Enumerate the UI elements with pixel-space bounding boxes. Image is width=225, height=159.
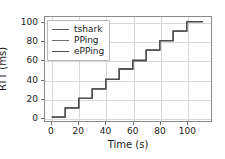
legend-swatch-icon: [52, 29, 69, 30]
legend-label: ePPing: [74, 46, 104, 57]
x-tick-label: 40: [100, 126, 111, 136]
x-tick-label: 100: [179, 126, 196, 136]
y-tick-label: 40: [27, 75, 38, 85]
y-tick-mark: [41, 99, 44, 100]
y-tick-label: 60: [27, 55, 38, 65]
x-tick-label: 60: [127, 126, 138, 136]
y-tick-mark: [41, 80, 44, 81]
y-axis-label: RTT (ms): [0, 47, 8, 91]
legend-swatch-icon: [52, 51, 69, 52]
y-tick-mark: [41, 60, 44, 61]
y-tick-mark: [41, 22, 44, 23]
x-axis-label: Time (s): [44, 139, 212, 150]
y-tick-label: 100: [21, 17, 38, 27]
rtt-vs-time-figure: 020406080100020406080100 Time (s) RTT (m…: [0, 0, 225, 159]
y-tick-label: 0: [32, 113, 38, 123]
legend-item-pping: PPing: [52, 35, 104, 46]
x-tick-mark: [187, 122, 188, 125]
x-tick-mark: [133, 122, 134, 125]
legend: tsharkPPingePPing: [47, 20, 110, 61]
x-tick-label: 20: [72, 126, 83, 136]
y-tick-label: 80: [27, 36, 38, 46]
x-tick-label: 0: [48, 126, 54, 136]
legend-swatch-icon: [52, 40, 69, 41]
legend-label: tshark: [74, 24, 102, 35]
x-tick-mark: [105, 122, 106, 125]
x-tick-mark: [51, 122, 52, 125]
legend-item-epping: ePPing: [52, 46, 104, 57]
x-tick-mark: [78, 122, 79, 125]
y-tick-mark: [41, 41, 44, 42]
x-tick-label: 80: [154, 126, 165, 136]
legend-item-tshark: tshark: [52, 24, 104, 35]
x-tick-mark: [160, 122, 161, 125]
y-tick-mark: [41, 118, 44, 119]
legend-label: PPing: [74, 35, 99, 46]
y-tick-label: 20: [27, 94, 38, 104]
